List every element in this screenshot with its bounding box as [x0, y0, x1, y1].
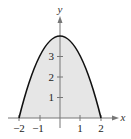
x-tick-label: 2 [98, 122, 104, 134]
x-axis-label: x [120, 111, 126, 123]
chart: −2 −1 1 2 1 2 3 x y [0, 0, 131, 139]
y-tick-label: 1 [49, 91, 55, 103]
y-axis-label: y [57, 3, 63, 15]
y-axis-arrow-icon [58, 16, 63, 23]
x-axis-arrow-icon [112, 116, 119, 121]
y-tick-label: 3 [49, 50, 55, 62]
x-tick-label: −1 [32, 122, 44, 134]
x-tick-label: −2 [13, 122, 25, 134]
y-tick-label: 2 [49, 71, 55, 83]
x-tick-label: 1 [77, 122, 83, 134]
